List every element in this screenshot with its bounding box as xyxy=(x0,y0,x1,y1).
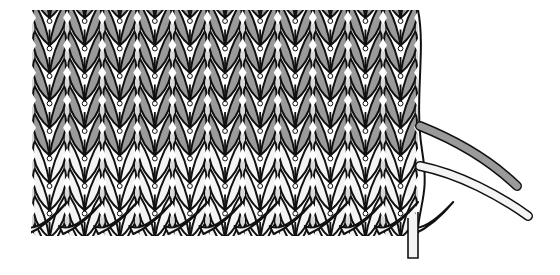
knitting-diagram xyxy=(0,0,560,275)
knit-fabric xyxy=(28,0,425,266)
